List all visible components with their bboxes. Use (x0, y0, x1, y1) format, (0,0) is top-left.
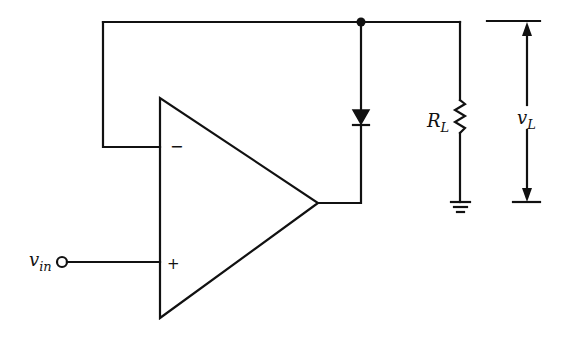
resistor-icon (455, 100, 465, 133)
junction-dot (357, 18, 366, 27)
resistor-label: RL (426, 110, 449, 135)
input-label: vin (29, 249, 52, 274)
arrow-down-icon (522, 188, 532, 202)
opamp-inverting-sign: − (170, 137, 183, 156)
feedback-wire (103, 22, 160, 147)
opamp-triangle (160, 98, 318, 318)
opamp-output-wire (318, 125, 361, 203)
input-terminal-icon (57, 257, 67, 267)
diode-icon (353, 110, 369, 125)
voltage-label: vL (517, 107, 536, 132)
opamp-noninverting-sign: + (167, 255, 180, 273)
circuit-diagram: − + RL vL vin (0, 0, 566, 340)
arrow-up-icon (522, 22, 532, 36)
ground-icon (451, 202, 470, 212)
